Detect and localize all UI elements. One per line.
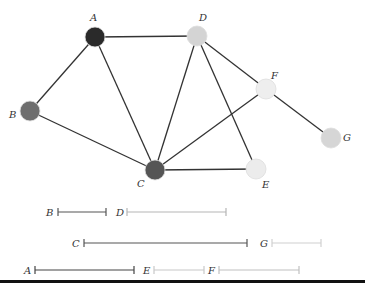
node-A — [85, 27, 105, 47]
interval-graph-diagram: ABCDEFGBDCGAEF — [0, 0, 365, 283]
interval-label-E: E — [142, 265, 151, 276]
node-C — [145, 160, 165, 180]
node-E — [246, 159, 266, 179]
node-G — [321, 128, 341, 148]
interval-label-G: G — [260, 238, 268, 249]
edge-A-C — [95, 37, 155, 170]
node-label-C: C — [137, 178, 145, 189]
node-label-A: A — [89, 12, 97, 23]
edge-C-D — [155, 36, 197, 170]
interval-label-C: C — [72, 238, 80, 249]
edge-B-C — [30, 111, 155, 170]
edge-A-B — [30, 37, 95, 111]
diagram-canvas: ABCDEFGBDCGAEF — [0, 0, 365, 283]
interval-label-A: A — [23, 265, 31, 276]
interval-label-B: B — [45, 207, 53, 218]
node-D — [187, 26, 207, 46]
edge-C-F — [155, 89, 266, 170]
node-label-G: G — [343, 132, 351, 143]
node-label-E: E — [261, 179, 270, 190]
node-label-B: B — [8, 109, 16, 120]
edge-D-F — [197, 36, 266, 89]
edge-F-G — [266, 89, 331, 138]
node-label-F: F — [270, 70, 279, 81]
interval-label-D: D — [115, 207, 124, 218]
edge-C-E — [155, 169, 256, 170]
node-F — [256, 79, 276, 99]
node-B — [20, 101, 40, 121]
edge-A-D — [95, 36, 197, 37]
interval-label-F: F — [207, 265, 216, 276]
node-label-D: D — [198, 12, 207, 23]
